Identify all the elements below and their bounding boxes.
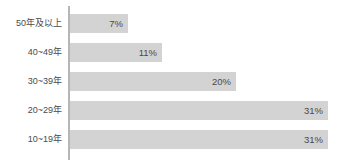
category-label: 10~19年 — [0, 130, 62, 149]
bar-value-label: 7% — [109, 14, 128, 33]
bar: 31% — [70, 101, 328, 120]
category-label: 40~49年 — [0, 43, 62, 62]
bar: 11% — [70, 43, 162, 62]
bar-track: 31% — [70, 101, 328, 120]
bar-row: 30~39年20% — [0, 72, 341, 91]
bar-value-label: 20% — [212, 72, 236, 91]
bar: 20% — [70, 72, 236, 91]
bar-value-label: 11% — [139, 43, 162, 62]
bar-rows-container: 50年及以上7%40~49年11%30~39年20%20~29年31%10~19… — [0, 0, 341, 167]
bar-track: 20% — [70, 72, 236, 91]
category-label: 20~29年 — [0, 101, 62, 120]
bar-track: 31% — [70, 130, 328, 149]
bar-value-label: 31% — [304, 130, 328, 149]
bar: 31% — [70, 130, 328, 149]
bar-row: 50年及以上7% — [0, 14, 341, 33]
bar: 7% — [70, 14, 128, 33]
bar-row: 40~49年11% — [0, 43, 341, 62]
bar-row: 10~19年31% — [0, 130, 341, 149]
category-label: 50年及以上 — [0, 14, 62, 33]
horizontal-bar-chart: 50年及以上7%40~49年11%30~39年20%20~29年31%10~19… — [0, 0, 341, 167]
bar-track: 7% — [70, 14, 128, 33]
bar-track: 11% — [70, 43, 162, 62]
category-label: 30~39年 — [0, 72, 62, 91]
bar-value-label: 31% — [304, 101, 328, 120]
bar-row: 20~29年31% — [0, 101, 341, 120]
